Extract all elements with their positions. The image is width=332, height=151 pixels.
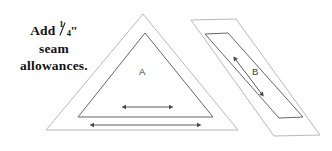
parallelogram-outer-outline <box>191 19 320 136</box>
fraction-denominator: 4 <box>67 29 71 38</box>
instruction-line-1-prefix: Add <box>30 23 59 38</box>
instruction-line-2: seam <box>2 40 106 58</box>
triangle-piece-label: A <box>139 67 145 77</box>
instruction-line-1: Add 14" <box>2 22 106 40</box>
quilting-template-diagram: Add 14" seam allowances. A B <box>0 0 332 151</box>
quarter-inch-fraction: 14 <box>59 22 70 36</box>
parallelogram-piece-label: B <box>252 67 258 77</box>
instruction-text: Add 14" seam allowances. <box>2 22 106 75</box>
inch-mark: " <box>70 23 78 38</box>
instruction-line-3: allowances. <box>2 57 106 75</box>
